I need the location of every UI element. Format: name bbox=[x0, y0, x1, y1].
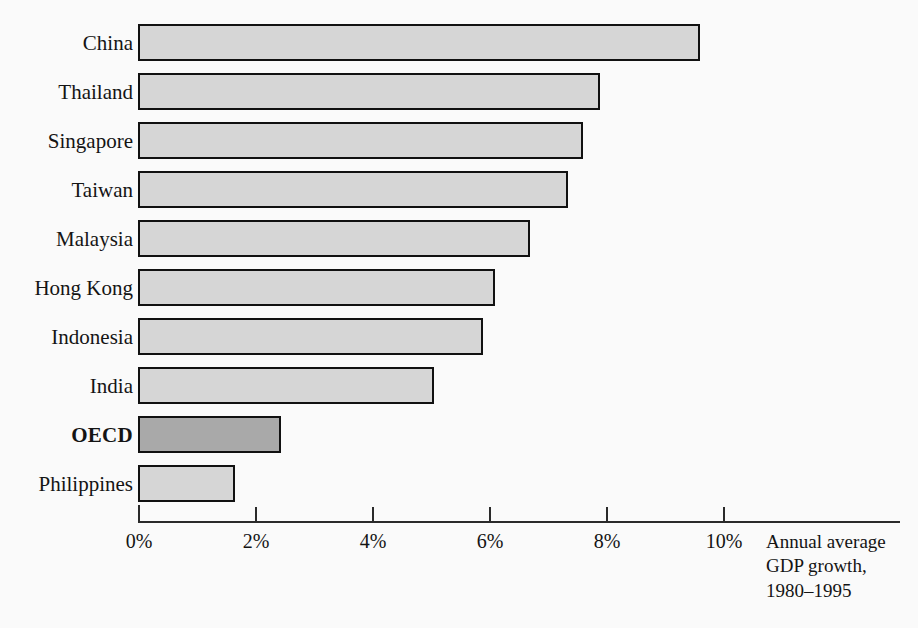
x-axis-line bbox=[138, 521, 900, 523]
x-axis-tick-0 bbox=[138, 507, 140, 522]
x-axis-tick-label-6: 6% bbox=[450, 530, 530, 553]
chart-page: China Thailand Singapore Taiwan Malaysia… bbox=[0, 0, 918, 628]
x-axis-caption: Annual average GDP growth, 1980–1995 bbox=[766, 530, 886, 603]
x-axis-caption-line-3: 1980–1995 bbox=[766, 579, 886, 603]
x-axis-tick-label-4: 4% bbox=[333, 530, 413, 553]
category-label-oecd: OECD bbox=[0, 425, 133, 446]
bar-singapore bbox=[138, 122, 583, 159]
category-label-indonesia: Indonesia bbox=[0, 327, 133, 348]
x-axis-tick-label-10: 10% bbox=[684, 530, 764, 553]
bar-oecd bbox=[138, 416, 281, 453]
bar-china bbox=[138, 24, 700, 61]
bar-indonesia bbox=[138, 318, 483, 355]
x-axis-caption-line-2: GDP growth, bbox=[766, 554, 886, 578]
category-label-thailand: Thailand bbox=[0, 82, 133, 103]
category-label-taiwan: Taiwan bbox=[0, 180, 133, 201]
bar-hong-kong bbox=[138, 269, 495, 306]
bar-malaysia bbox=[138, 220, 530, 257]
x-axis-tick-6 bbox=[489, 507, 491, 522]
x-axis-tick-10 bbox=[723, 507, 725, 522]
category-label-philippines: Philippines bbox=[0, 474, 133, 495]
category-label-india: India bbox=[0, 376, 133, 397]
x-axis-caption-line-1: Annual average bbox=[766, 530, 886, 554]
x-axis-tick-label-2: 2% bbox=[216, 530, 296, 553]
bar-taiwan bbox=[138, 171, 568, 208]
category-label-singapore: Singapore bbox=[0, 131, 133, 152]
category-label-china: China bbox=[0, 33, 133, 54]
x-axis-tick-2 bbox=[255, 507, 257, 522]
bar-thailand bbox=[138, 73, 600, 110]
x-axis-tick-label-0: 0% bbox=[99, 530, 179, 553]
x-axis-tick-8 bbox=[606, 507, 608, 522]
bar-philippines bbox=[138, 465, 235, 502]
bar-chart-plot-area: China Thailand Singapore Taiwan Malaysia… bbox=[0, 0, 918, 628]
category-label-hong-kong: Hong Kong bbox=[0, 278, 133, 299]
category-label-malaysia: Malaysia bbox=[0, 229, 133, 250]
bar-india bbox=[138, 367, 434, 404]
x-axis-tick-label-8: 8% bbox=[567, 530, 647, 553]
x-axis-tick-4 bbox=[372, 507, 374, 522]
